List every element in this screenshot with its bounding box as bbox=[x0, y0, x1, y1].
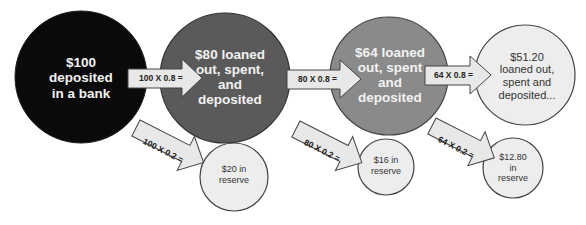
deposit-label-line: $100 bbox=[66, 55, 96, 70]
loan3-label-line: deposited... bbox=[499, 89, 556, 102]
reserve3-label-line: $12.80 bbox=[499, 152, 527, 163]
reserve3-label: $12.80 in reserve bbox=[487, 148, 539, 188]
loan2-label-line: out, spent bbox=[358, 60, 423, 75]
diagram-canvas bbox=[0, 0, 586, 225]
loan-arrow-3-label: 64 X 0.8 = bbox=[434, 70, 473, 80]
loan3-label-line: loaned out, bbox=[500, 63, 554, 76]
reserve2-label-line: reserve bbox=[371, 166, 401, 177]
reserve1-label: $20 in reserve bbox=[204, 160, 264, 190]
loan3-label-line: spent and bbox=[503, 76, 551, 89]
loan-arrow-2-label: 80 X 0.8 = bbox=[298, 74, 337, 84]
reserve1-label-line: reserve bbox=[219, 175, 249, 186]
deposit-label-line: deposited bbox=[49, 70, 113, 85]
loan3-label-line: $51.20 bbox=[510, 51, 544, 64]
deposit-label-line: in a bank bbox=[52, 86, 111, 101]
reserve3-label-line: reserve bbox=[498, 173, 528, 184]
loan1-label: $80 loaned out, spent, and deposited bbox=[180, 42, 280, 112]
reserve1-label-line: $20 in bbox=[222, 164, 247, 175]
deposit-label: $100 deposited in a bank bbox=[26, 48, 136, 108]
reserve2-label: $16 in reserve bbox=[360, 152, 412, 180]
loan2-label: $64 loaned out, spent and deposited bbox=[340, 40, 440, 110]
loan1-label-line: deposited bbox=[198, 92, 262, 107]
loan1-label-line: and bbox=[218, 77, 242, 92]
loan2-label-line: deposited bbox=[358, 90, 422, 105]
loan2-label-line: and bbox=[378, 75, 402, 90]
loan3-label: $51.20 loaned out, spent and deposited..… bbox=[482, 48, 572, 104]
loan1-label-line: out, spent, bbox=[196, 62, 264, 77]
reserve3-label-line: in bbox=[509, 163, 516, 174]
loan-arrow-1-label: 100 X 0.8 = bbox=[139, 73, 183, 83]
loan1-label-line: $80 loaned bbox=[195, 47, 265, 62]
reserve2-label-line: $16 in bbox=[374, 155, 399, 166]
loan2-label-line: $64 loaned bbox=[355, 45, 425, 60]
